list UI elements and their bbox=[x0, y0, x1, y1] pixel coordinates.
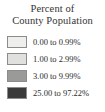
legend-swatch-icon bbox=[7, 53, 27, 65]
legend-row: 1.00 to 2.99% bbox=[0, 50, 105, 67]
legend-row-label: 3.00 to 9.99% bbox=[33, 71, 81, 81]
legend-row-label: 0.00 to 0.99% bbox=[33, 37, 81, 47]
legend-row: 3.00 to 9.99% bbox=[0, 67, 105, 84]
legend-title-line-1: Percent of bbox=[0, 3, 105, 15]
legend-title: Percent of County Population bbox=[0, 3, 105, 27]
map-legend: Percent of County Population 0.00 to 0.9… bbox=[0, 0, 105, 112]
legend-swatch-icon bbox=[7, 70, 27, 82]
legend-swatch-icon bbox=[7, 87, 27, 99]
legend-row-label: 1.00 to 2.99% bbox=[33, 54, 81, 64]
legend-title-line-2: County Population bbox=[0, 15, 105, 27]
legend-class-list: 0.00 to 0.99% 1.00 to 2.99% 3.00 to 9.99… bbox=[0, 33, 105, 101]
legend-row-label: 25.00 to 97.22% bbox=[33, 88, 89, 98]
legend-row: 0.00 to 0.99% bbox=[0, 33, 105, 50]
legend-row: 25.00 to 97.22% bbox=[0, 84, 105, 101]
legend-swatch-icon bbox=[7, 36, 27, 48]
